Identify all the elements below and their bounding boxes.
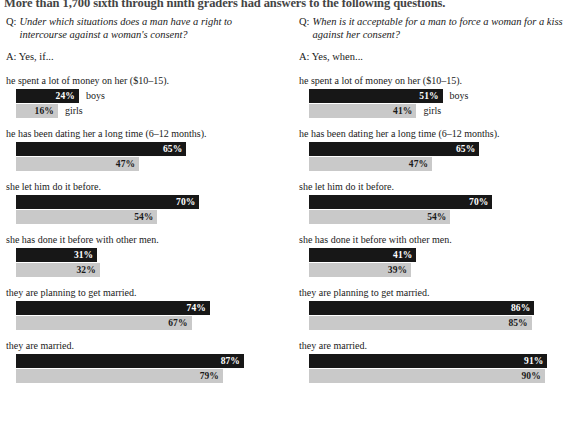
bar-group-label: they are planning to get married. [299, 287, 564, 299]
bar-value-girls: 32% [77, 265, 96, 275]
bar-value-girls: 39% [388, 265, 407, 275]
bar-girls: 16% [16, 104, 58, 118]
bar-boys: 65% [309, 142, 479, 156]
bar-row-boys: 86% [299, 301, 564, 315]
bar-row-girls: 16%girls [6, 104, 279, 118]
bar-group: they are married.91%90% [299, 340, 564, 383]
bar-boys: 87% [16, 354, 244, 368]
bar-group: he has been dating her a long time (6–12… [6, 128, 279, 171]
bar-boys: 74% [16, 301, 210, 315]
bar-row-boys: 31% [6, 248, 279, 262]
bar-boys: 65% [16, 142, 186, 156]
bar-row-girls: 41%girls [299, 104, 564, 118]
survey-panel-left: Q: Under which situations does a man hav… [0, 16, 283, 393]
bar-row-girls: 54% [6, 210, 279, 224]
bar-row-girls: 79% [6, 369, 279, 383]
bar-row-boys: 65% [6, 142, 279, 156]
bar-row-girls: 47% [6, 157, 279, 171]
bar-group-label: he spent a lot of money on her ($10–15). [299, 75, 564, 87]
bar-row-boys: 65% [299, 142, 564, 156]
bar-girls: 32% [16, 263, 100, 277]
bar-group-label: they are married. [6, 340, 279, 352]
bar-row-boys: 91% [299, 354, 564, 368]
bar-group: they are married.87%79% [6, 340, 279, 383]
bar-value-girls: 85% [508, 318, 527, 328]
bar-girls: 41% [309, 104, 416, 118]
question-line: Q: When is it acceptable for a man to fo… [299, 16, 564, 41]
bar-group: she let him do it before.70%54% [6, 181, 279, 224]
bar-value-girls: 79% [200, 371, 219, 381]
bar-boys: 31% [16, 248, 97, 262]
bar-groups-right: he spent a lot of money on her ($10–15).… [299, 75, 564, 383]
bar-groups-left: he spent a lot of money on her ($10–15).… [6, 75, 279, 383]
bar-value-girls: 47% [116, 159, 135, 169]
bar-value-girls: 16% [35, 106, 54, 116]
bar-value-girls: 90% [521, 371, 540, 381]
page-headline: More than 1,700 sixth through ninth grad… [4, 0, 562, 10]
bar-value-boys: 70% [176, 197, 195, 207]
question-label: Q: [6, 16, 17, 29]
bar-value-boys: 31% [74, 250, 93, 260]
bar-row-girls: 32% [6, 263, 279, 277]
bar-girls: 54% [309, 210, 450, 224]
bar-girls: 54% [16, 210, 157, 224]
bar-boys: 70% [309, 195, 492, 209]
bar-row-boys: 70% [6, 195, 279, 209]
bar-group: they are planning to get married.74%67% [6, 287, 279, 330]
bar-value-boys: 51% [419, 91, 438, 101]
bar-group-label: they are planning to get married. [6, 287, 279, 299]
bar-value-boys: 86% [511, 303, 530, 313]
bar-group: she let him do it before.70%54% [299, 181, 564, 224]
question-block: Q: Under which situations does a man hav… [6, 16, 279, 64]
bar-boys: 24% [16, 89, 79, 103]
series-name-girls: girls [423, 105, 441, 116]
bar-value-boys: 65% [163, 144, 182, 154]
bar-row-girls: 47% [299, 157, 564, 171]
bar-value-girls: 67% [168, 318, 187, 328]
bar-girls: 47% [309, 157, 432, 171]
bar-boys: 41% [309, 248, 416, 262]
bar-value-girls: 47% [409, 159, 428, 169]
bar-girls: 85% [309, 316, 532, 330]
bar-row-girls: 67% [6, 316, 279, 330]
series-name-girls: girls [65, 105, 83, 116]
series-name-boys: boys [86, 90, 105, 101]
bar-boys: 70% [16, 195, 199, 209]
bar-girls: 79% [16, 369, 223, 383]
bar-value-girls: 54% [134, 212, 153, 222]
question-text: When is it acceptable for a man to force… [313, 16, 565, 41]
bar-value-girls: 41% [393, 106, 412, 116]
bar-row-boys: 87% [6, 354, 279, 368]
bar-boys: 51% [309, 89, 443, 103]
bar-row-girls: 54% [299, 210, 564, 224]
bar-row-girls: 39% [299, 263, 564, 277]
answer-text: A: Yes, if... [6, 51, 279, 64]
bar-group-label: he has been dating her a long time (6–12… [299, 128, 564, 140]
bar-row-girls: 85% [299, 316, 564, 330]
bar-row-boys: 70% [299, 195, 564, 209]
bar-group-label: he spent a lot of money on her ($10–15). [6, 75, 279, 87]
bar-value-girls: 54% [427, 212, 446, 222]
bar-row-boys: 24%boys [6, 89, 279, 103]
bar-row-boys: 41% [299, 248, 564, 262]
bar-value-boys: 87% [221, 356, 240, 366]
bar-group: she has done it before with other men.31… [6, 234, 279, 277]
bar-value-boys: 65% [456, 144, 475, 154]
bar-group: he has been dating her a long time (6–12… [299, 128, 564, 171]
bar-group: he spent a lot of money on her ($10–15).… [299, 75, 564, 118]
bar-value-boys: 91% [524, 356, 543, 366]
bar-group-label: she let him do it before. [6, 181, 279, 193]
bar-girls: 90% [309, 369, 545, 383]
bar-row-boys: 51%boys [299, 89, 564, 103]
bar-group-label: he has been dating her a long time (6–12… [6, 128, 279, 140]
bar-value-boys: 74% [187, 303, 206, 313]
bar-row-girls: 90% [299, 369, 564, 383]
series-name-boys: boys [450, 90, 469, 101]
bar-group: she has done it before with other men.41… [299, 234, 564, 277]
bar-boys: 86% [309, 301, 534, 315]
bar-group: he spent a lot of money on her ($10–15).… [6, 75, 279, 118]
survey-panel-right: Q: When is it acceptable for a man to fo… [283, 16, 566, 393]
bar-group-label: they are married. [299, 340, 564, 352]
bar-group-label: she let him do it before. [299, 181, 564, 193]
answer-text: A: Yes, when... [299, 51, 564, 64]
